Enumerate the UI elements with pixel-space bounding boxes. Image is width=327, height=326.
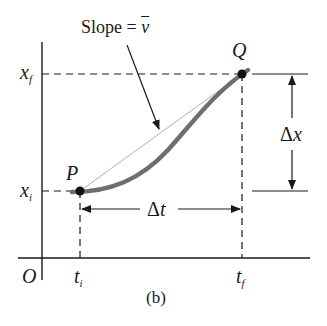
delta-t-var: t <box>160 198 166 220</box>
delta-t-delta: Δ <box>147 198 160 220</box>
x-tick-tf-sub: f <box>242 277 245 289</box>
delta-x-label: Δx <box>280 124 302 144</box>
x-tick-tf: tf <box>236 266 245 286</box>
y-tick-xf-base: x <box>20 61 29 83</box>
y-tick-xi-sub: i <box>29 191 32 203</box>
x-tick-ti-base: t <box>74 265 80 287</box>
x-tick-ti: ti <box>74 266 83 286</box>
point-p-label: P <box>66 163 78 183</box>
point-p <box>76 187 85 196</box>
point-q-label: Q <box>232 40 246 60</box>
y-tick-xi-base: x <box>20 179 29 201</box>
x-tick-tf-base: t <box>236 265 242 287</box>
delta-x-delta: Δ <box>280 123 293 145</box>
delta-x-var: x <box>293 123 302 145</box>
y-tick-xf-sub: f <box>29 73 32 85</box>
average-velocity-symbol: v <box>141 17 149 37</box>
slope-label-prefix: Slope = <box>81 17 141 37</box>
position-curve <box>72 70 248 192</box>
delta-t-label: Δt <box>147 199 165 219</box>
slope-label: Slope = v <box>81 18 149 36</box>
slope-pointer-arrow <box>127 45 159 129</box>
y-tick-xf: xf <box>20 62 32 82</box>
origin-label: O <box>22 266 36 286</box>
x-tick-ti-sub: i <box>80 277 83 289</box>
position-time-graph <box>0 0 327 326</box>
secant-chord <box>80 74 242 191</box>
figure-caption: (b) <box>146 289 166 306</box>
point-q <box>238 70 247 79</box>
y-tick-xi: xi <box>20 180 32 200</box>
